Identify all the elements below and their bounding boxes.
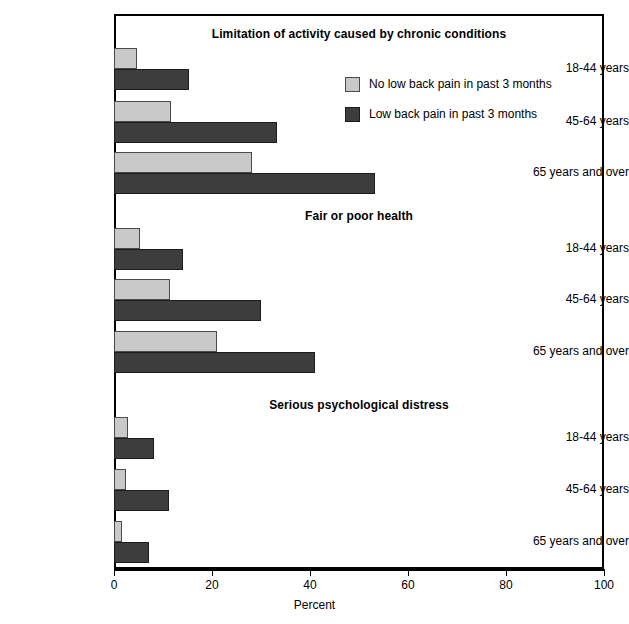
bar-low-back-pain (114, 542, 149, 563)
bar-low-back-pain (114, 438, 154, 459)
category-label: 65 years and over (521, 165, 629, 179)
category-label: 65 years and over (521, 344, 629, 358)
bar-low-back-pain (114, 69, 189, 90)
category-label: 45-64 years (521, 114, 629, 128)
bar-low-back-pain (114, 300, 261, 321)
legend-item-no-low-back-pain: No low back pain in past 3 months (345, 72, 552, 96)
legend-label-low-back-pain: Low back pain in past 3 months (369, 107, 537, 121)
x-axis-line (114, 569, 605, 571)
legend-swatch-dark-icon (345, 107, 360, 122)
bar-low-back-pain (114, 249, 183, 270)
x-axis-tick-label: 0 (111, 578, 118, 592)
x-axis-tick-label: 100 (594, 578, 614, 592)
category-label: 18-44 years (521, 430, 629, 444)
category-label: 18-44 years (521, 61, 629, 75)
x-axis-tick-label: 60 (401, 578, 414, 592)
x-axis-tick-label: 80 (499, 578, 512, 592)
category-label: 65 years and over (521, 534, 629, 548)
x-axis-tick (408, 569, 409, 576)
x-axis-title: Percent (0, 598, 629, 612)
bar-no-low-back-pain (114, 469, 126, 490)
x-axis-tick (212, 569, 213, 576)
bar-no-low-back-pain (114, 228, 140, 249)
x-axis-tick (114, 569, 115, 576)
legend-label-no-low-back-pain: No low back pain in past 3 months (369, 77, 552, 91)
panel-title-limitation-of-activity: Limitation of activity caused by chronic… (114, 27, 604, 41)
x-axis-tick-label: 40 (303, 578, 316, 592)
panel-title-fair-or-poor-health: Fair or poor health (114, 209, 604, 223)
bar-no-low-back-pain (114, 152, 252, 173)
x-axis-tick (310, 569, 311, 576)
x-axis-tick-label: 20 (205, 578, 218, 592)
category-label: 45-64 years (521, 482, 629, 496)
bar-no-low-back-pain (114, 101, 171, 122)
legend-swatch-light-icon (345, 77, 360, 92)
x-axis-tick (506, 569, 507, 576)
bar-low-back-pain (114, 490, 169, 511)
chart-container: Limitation of activity caused by chronic… (0, 0, 629, 624)
category-label: 18-44 years (521, 241, 629, 255)
bar-no-low-back-pain (114, 279, 170, 300)
bar-low-back-pain (114, 173, 375, 194)
bar-no-low-back-pain (114, 417, 128, 438)
bar-no-low-back-pain (114, 521, 122, 542)
panel-title-serious-psychological-distress: Serious psychological distress (114, 398, 604, 412)
bar-no-low-back-pain (114, 331, 217, 352)
bar-no-low-back-pain (114, 48, 137, 69)
bar-low-back-pain (114, 122, 277, 143)
category-label: 45-64 years (521, 292, 629, 306)
x-axis-tick (604, 569, 605, 576)
bar-low-back-pain (114, 352, 315, 373)
